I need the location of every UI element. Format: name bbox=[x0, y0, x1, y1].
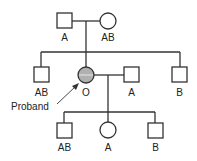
g3-daughter-circle bbox=[100, 122, 116, 138]
g1-mother-circle bbox=[100, 13, 116, 29]
g3-daughter-label: A bbox=[105, 142, 112, 153]
g1-mother-label: AB bbox=[101, 32, 115, 43]
g3-son2-label: B bbox=[152, 142, 159, 153]
g2-brother2-label: B bbox=[176, 87, 183, 98]
g3-son2-square bbox=[148, 123, 163, 138]
g3-son1-label: AB bbox=[58, 142, 72, 153]
g2-spouse-label: A bbox=[128, 87, 135, 98]
pedigree-diagram: A AB AB O A B Proband AB A B bbox=[0, 0, 197, 161]
g2-spouse-square bbox=[124, 67, 139, 82]
generation-1: A AB bbox=[57, 13, 116, 52]
generation-3: AB A B bbox=[57, 112, 163, 153]
g1-father-label: A bbox=[61, 32, 68, 43]
proband-label: Proband bbox=[11, 101, 49, 112]
g2-brother1-label: AB bbox=[35, 87, 49, 98]
g3-son1-square bbox=[57, 123, 72, 138]
g1-father-square bbox=[57, 13, 72, 28]
proband-arrow-line bbox=[57, 86, 76, 104]
g2-brother2-square bbox=[172, 67, 187, 82]
g2-brother1-square bbox=[34, 67, 49, 82]
generation-2: AB O A B bbox=[34, 52, 187, 112]
g2-proband-label: O bbox=[82, 87, 90, 98]
